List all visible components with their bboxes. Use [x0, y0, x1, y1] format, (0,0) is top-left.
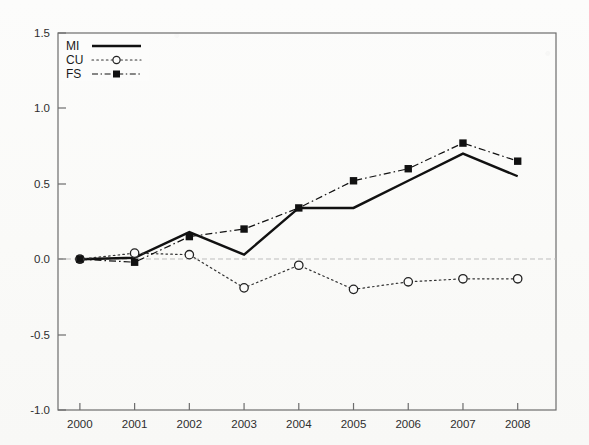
legend-sample-fs-filled-square-icon: [113, 71, 120, 78]
data-point-fs: [186, 233, 193, 240]
series-line-fs: [80, 143, 518, 262]
data-point-cu: [404, 278, 412, 286]
data-point-cu: [185, 250, 193, 258]
x-tick-label: 2002: [177, 418, 203, 430]
data-point-fs: [76, 256, 83, 263]
plot-frame: [58, 33, 556, 410]
x-tick-label: 2005: [341, 418, 367, 430]
y-tick-label-5: -0.5: [30, 329, 50, 341]
data-point-cu: [513, 275, 521, 283]
data-point-cu: [240, 284, 248, 292]
x-tick-label: 2007: [450, 418, 476, 430]
y-tick-label-4: 0.0: [34, 253, 50, 265]
x-tick-label: 2008: [505, 418, 531, 430]
chart-page: 1.5 1.0 0.5 0.0 -0.5 -1.0 20002001200220…: [0, 0, 589, 445]
data-point-fs: [131, 259, 138, 266]
y-tick-label-2: 1.0: [34, 102, 50, 114]
data-point-cu: [349, 285, 357, 293]
data-point-cu: [130, 249, 138, 257]
chart-legend: MI CU FS: [61, 36, 149, 81]
y-axis-ticks: [58, 33, 66, 410]
series-markers-cu: [76, 249, 522, 294]
y-tick-label-6: -1.0: [30, 404, 50, 416]
data-point-fs: [459, 139, 466, 146]
legend-label-fs: FS: [66, 67, 81, 81]
data-point-fs: [350, 177, 357, 184]
y-tick-label-3: 0.5: [34, 178, 50, 190]
data-point-fs: [405, 165, 412, 172]
data-point-cu: [459, 275, 467, 283]
x-tick-label: 2000: [67, 418, 93, 430]
data-point-cu: [295, 261, 303, 269]
data-point-fs: [514, 157, 521, 164]
legend-sample-cu-open-circle-icon: [113, 56, 120, 63]
x-tick-label: 2001: [122, 418, 148, 430]
line-chart: 1.5 1.0 0.5 0.0 -0.5 -1.0 20002001200220…: [0, 0, 589, 445]
legend-label-mi: MI: [66, 39, 79, 53]
x-axis-ticks: [80, 403, 518, 410]
y-tick-label-1: 1.5: [34, 27, 50, 39]
x-tick-label: 2003: [231, 418, 257, 430]
x-tick-label: 2004: [286, 418, 312, 430]
series-layer: [76, 139, 522, 293]
data-point-fs: [240, 225, 247, 232]
data-point-fs: [295, 204, 302, 211]
legend-label-cu: CU: [66, 53, 83, 67]
x-axis-tick-labels: 200020012002200320042005200620072008: [67, 418, 530, 430]
x-tick-label: 2006: [395, 418, 421, 430]
